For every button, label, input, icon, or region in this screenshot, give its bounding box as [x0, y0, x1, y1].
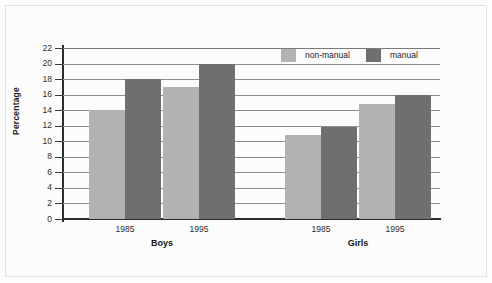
chart-legend: non-manualmanual — [281, 46, 434, 64]
y-axis-tick-label: 18 — [26, 75, 52, 84]
bar-non-manual-girls-1985 — [285, 135, 321, 219]
x-axis-tick-label: 1985 — [105, 224, 145, 234]
y-axis-tick-label: 8 — [26, 152, 52, 161]
bar-manual-boys-1985 — [125, 79, 161, 219]
y-axis-tick-label: 4 — [26, 183, 52, 192]
y-axis-tick-label: 16 — [26, 90, 52, 99]
y-axis-title: Percentage — [11, 71, 21, 151]
chart-figure: 2220181614121086420 Percentage 198519951… — [0, 0, 492, 283]
y-axis-tick-mark — [55, 172, 63, 173]
y-axis-tick-mark — [55, 157, 63, 158]
y-axis-tick-label: 20 — [26, 59, 52, 68]
y-axis-tick-mark — [55, 188, 63, 189]
bar-non-manual-boys-1995 — [163, 87, 199, 219]
bar-manual-girls-1985 — [321, 127, 357, 219]
bar-non-manual-boys-1985 — [89, 110, 125, 219]
x-axis-group-label-girls: Girls — [328, 238, 388, 248]
y-axis-tick-mark — [55, 126, 63, 127]
y-axis-tick-mark — [55, 203, 63, 204]
y-axis-tick-label: 2 — [26, 199, 52, 208]
y-axis-tick-mark — [55, 64, 63, 65]
gridline — [63, 95, 440, 96]
bar-manual-boys-1995 — [199, 64, 235, 219]
y-axis-tick-label: 0 — [26, 215, 52, 224]
y-axis-tick-label: 10 — [26, 137, 52, 146]
gridline — [63, 79, 440, 80]
bar-non-manual-girls-1995 — [359, 104, 395, 219]
x-axis-group-label-boys: Boys — [132, 238, 192, 248]
y-axis-tick-mark — [55, 110, 63, 111]
plot-area — [63, 48, 440, 219]
x-axis-tick-label: 1995 — [179, 224, 219, 234]
legend-swatch-non-manual — [281, 49, 296, 62]
y-axis-tick-mark — [55, 48, 63, 49]
y-axis-tick-label: 14 — [26, 106, 52, 115]
y-axis-tick-mark — [55, 95, 63, 96]
y-axis-tick-mark — [55, 141, 63, 142]
x-axis-tick-label: 1995 — [375, 224, 415, 234]
y-axis-tick-mark — [55, 79, 63, 80]
legend-label-manual: manual — [390, 50, 418, 60]
x-axis-tick-label: 1985 — [301, 224, 341, 234]
y-axis-tick-label: 12 — [26, 121, 52, 130]
y-axis-tick-mark — [55, 219, 63, 220]
legend-swatch-manual — [366, 49, 381, 62]
y-axis-tick-labels: 2220181614121086420 — [22, 0, 52, 283]
bar-manual-girls-1995 — [395, 95, 431, 219]
legend-label-non-manual: non-manual — [305, 50, 350, 60]
y-axis-tick-label: 6 — [26, 168, 52, 177]
y-axis-tick-label: 22 — [26, 44, 52, 53]
